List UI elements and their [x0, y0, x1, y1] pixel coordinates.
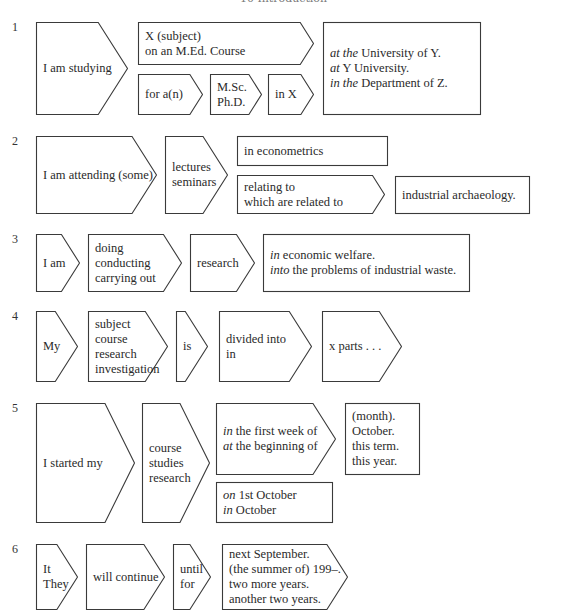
phrase-line: into the problems of industrial waste. — [270, 263, 456, 278]
phrase-line: on 1st October — [223, 488, 297, 503]
phrase-words: is — [183, 339, 191, 353]
phrase-text: I am — [43, 234, 66, 292]
phrase-words: (month). — [352, 409, 395, 423]
phrase-line: course — [95, 332, 160, 347]
phrase-text: relating towhich are related to — [244, 175, 343, 214]
phrase-words: another two years. — [229, 592, 321, 606]
page-header: 10 Introduction — [0, 0, 567, 5]
phrase-words: this term. — [352, 439, 399, 453]
phrase-box: on 1st Octoberin October — [216, 482, 333, 523]
phrase-words: It — [43, 562, 51, 576]
row-number: 2 — [12, 134, 18, 149]
phrase-text: lecturesseminars — [172, 136, 216, 214]
arrow-phrase-box: My — [36, 311, 78, 382]
phrase-text: I started my — [43, 403, 103, 523]
phrase-text: at the University of Y.at Y University.i… — [330, 22, 448, 115]
phrase-text: in the first week ofat the beginning of — [223, 403, 318, 475]
phrase-line: Ph.D. — [217, 95, 247, 110]
phrase-line: research — [197, 256, 239, 271]
arrow-phrase-box: in X — [268, 74, 314, 115]
phrase-words: October. — [352, 424, 395, 438]
phrase-box: industrial archaeology. — [395, 176, 530, 214]
phrase-text: coursestudiesresearch — [149, 403, 191, 523]
arrow-phrase-box: is — [176, 311, 208, 382]
phrase-text: is — [183, 311, 191, 382]
arrow-phrase-box: lecturesseminars — [165, 136, 228, 214]
phrase-line: industrial archaeology. — [402, 188, 516, 203]
phrase-line: studies — [149, 456, 191, 471]
phrase-words: doing — [95, 241, 123, 255]
phrase-line: two more years. — [229, 577, 341, 592]
phrase-text: ItThey — [43, 544, 69, 610]
phrase-line: I started my — [43, 456, 103, 471]
italic-preposition: at the — [330, 46, 358, 60]
phrase-line: M.Sc. — [217, 80, 247, 95]
phrase-words: x parts . . . — [329, 339, 381, 353]
phrase-line: in the first week of — [223, 424, 318, 439]
phrase-line: at the University of Y. — [330, 46, 448, 61]
phrase-words: X (subject) — [145, 29, 201, 43]
arrow-phrase-box: I am attending (some) — [36, 136, 157, 214]
phrase-words: next September. — [229, 547, 310, 561]
arrow-phrase-box: I started my — [36, 403, 135, 523]
phrase-line: course — [149, 441, 191, 456]
phrase-words: 1st October — [236, 488, 297, 502]
phrase-text: for a(n) — [145, 74, 183, 115]
phrase-words: October — [233, 503, 276, 517]
phrase-line: carrying out — [95, 271, 156, 286]
arrow-phrase-box: I am studying — [36, 22, 128, 115]
phrase-line: in economic welfare. — [270, 248, 456, 263]
phrase-words: the beginning of — [233, 439, 318, 453]
phrase-words: two more years. — [229, 577, 309, 591]
phrase-line: conducting — [95, 256, 156, 271]
phrase-box: in econometrics — [237, 136, 388, 166]
phrase-line: is — [183, 339, 191, 354]
phrase-line: They — [43, 577, 69, 592]
phrase-text: in econometrics — [244, 136, 324, 166]
phrase-line: I am studying — [43, 61, 112, 76]
italic-preposition: at — [223, 439, 233, 453]
phrase-words: the problems of industrial waste. — [289, 263, 456, 277]
phrase-line: this year. — [352, 454, 399, 469]
italic-preposition: in — [223, 503, 233, 517]
phrase-words: in econometrics — [244, 144, 324, 158]
phrase-line: for — [180, 577, 203, 592]
phrase-line: It — [43, 562, 69, 577]
phrase-words: which are related to — [244, 195, 343, 209]
phrase-words: My — [43, 339, 60, 353]
phrase-words: relating to — [244, 180, 295, 194]
phrase-words: I am studying — [43, 61, 112, 75]
phrase-words: I am attending (some) — [43, 168, 153, 182]
arrow-phrase-box: relating towhich are related to — [237, 175, 385, 214]
row-number: 5 — [12, 401, 18, 416]
phrase-line: in X — [275, 87, 297, 102]
arrow-phrase-box: for a(n) — [138, 74, 203, 115]
phrase-words: (the summer of) 199–. — [229, 562, 341, 576]
phrase-line: at the beginning of — [223, 439, 318, 454]
phrase-words: subject — [95, 317, 130, 331]
italic-preposition: in — [223, 424, 233, 438]
phrase-words: research — [95, 347, 137, 361]
phrase-text: doingconductingcarrying out — [95, 234, 156, 292]
phrase-line: relating to — [244, 180, 343, 195]
phrase-words: I started my — [43, 456, 103, 470]
phrase-words: studies — [149, 456, 184, 470]
arrow-phrase-box: ItThey — [36, 544, 78, 610]
phrase-words: in X — [275, 87, 297, 101]
phrase-words: They — [43, 577, 69, 591]
arrow-phrase-box: x parts . . . — [322, 311, 402, 382]
phrase-line: research — [149, 471, 191, 486]
phrase-text: X (subject)on an M.Ed. Course — [145, 22, 245, 65]
phrase-text: industrial archaeology. — [402, 176, 516, 214]
phrase-text: x parts . . . — [329, 311, 381, 382]
phrase-line: which are related to — [244, 195, 343, 210]
phrase-words: in — [226, 347, 236, 361]
arrow-phrase-box: research — [190, 234, 255, 292]
arrow-phrase-box: next September.(the summer of) 199–.two … — [222, 544, 348, 610]
row-number: 4 — [12, 309, 18, 324]
phrase-line: subject — [95, 317, 160, 332]
phrase-text: untilfor — [180, 544, 203, 610]
phrase-words: M.Sc. — [217, 80, 247, 94]
row-number: 6 — [12, 542, 18, 557]
phrase-line: until — [180, 562, 203, 577]
